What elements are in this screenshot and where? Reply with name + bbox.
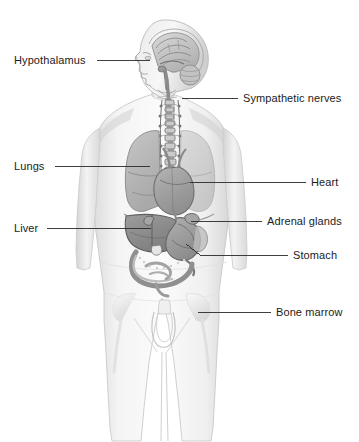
label-hypothalamus: Hypothalamus [14,54,86,66]
label-heart: Heart [311,176,338,188]
label-liver: Liver [14,222,38,234]
anatomy-figure: Hypothalamus Lungs Liver Sympathetic ner… [0,0,359,442]
label-sympathetic-nerves: Sympathetic nerves [243,92,341,104]
heart-organ [154,167,194,215]
label-stomach: Stomach [293,249,337,261]
cerebellum [180,65,200,85]
label-adrenal-glands: Adrenal glands [267,215,342,227]
label-lungs: Lungs [14,160,44,172]
label-bone-marrow: Bone marrow [276,306,343,318]
head-sagittal-section [135,20,208,104]
